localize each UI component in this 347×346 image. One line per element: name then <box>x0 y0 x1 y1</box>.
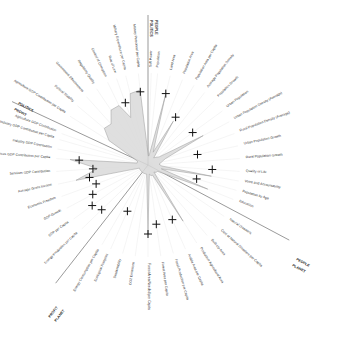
axis-label: Energy Consumption per Capita <box>72 248 100 292</box>
axis-spoke <box>148 165 207 235</box>
axis-spoke <box>102 165 148 245</box>
axis-label: Economic Freedom <box>27 196 56 210</box>
axis-label: Sustainability <box>113 258 122 279</box>
axis-label: Population Area <box>182 51 195 75</box>
axis-label: CO2 Emissions <box>128 261 135 285</box>
axis-label: GDP per Capita <box>48 220 70 237</box>
target-plus-icon <box>144 230 152 238</box>
target-plus-icon <box>193 175 201 183</box>
axis-label: Industry GDP Contribution <box>12 138 52 149</box>
target-plus-icon <box>123 207 131 215</box>
axis-label: Cost of Natural Disasters per Capita <box>220 228 263 267</box>
axis-label: Agriculture GDP Contribution per Capita <box>13 79 66 114</box>
axis-label: Rural Population Density (Average) <box>239 111 290 133</box>
axis-label: Rule of Law <box>107 55 117 74</box>
target-plus-icon <box>208 165 216 173</box>
axis-label: Voice and Accountability <box>244 179 281 189</box>
target-plus-icon <box>193 150 201 158</box>
axis-label: Population Growth <box>216 75 239 97</box>
section-label-politics-top: POLITICS <box>149 20 153 37</box>
axis-label: Forest Area per Capita <box>161 262 170 296</box>
axis-label: Rural Population Growth <box>246 153 283 160</box>
target-plus-icon <box>88 202 96 210</box>
axis-label: Population <box>155 51 161 67</box>
axis-label: Land Area <box>169 54 177 70</box>
axis-spoke <box>148 165 161 256</box>
target-plus-icon <box>92 180 100 188</box>
section-label-people-top: PEOPLE <box>154 20 158 35</box>
axis-label: Built-Up Area <box>210 238 226 256</box>
axis-label: Quality of Life <box>246 169 267 174</box>
axis-label: Soft Power <box>148 50 153 68</box>
axis-label: Control of Corruption <box>90 47 107 77</box>
axis-label: Regulatory Quality <box>77 59 96 85</box>
axis-label: Education <box>239 199 255 208</box>
axis-spoke <box>123 165 148 253</box>
target-plus-icon <box>162 90 170 98</box>
target-plus-icon <box>168 216 176 224</box>
axis-label: Services GDP Contribution per Capita <box>0 151 51 159</box>
axis-label: Fossil Production per Capita <box>174 258 190 300</box>
target-plus-icon <box>89 190 97 198</box>
axis-label: Political Stability <box>53 84 75 103</box>
target-plus-icon <box>121 99 129 107</box>
axis-label: Arable Area per Capita <box>187 253 205 286</box>
target-plus-icon <box>189 129 197 137</box>
section-divider <box>148 165 289 240</box>
target-plus-icon <box>172 113 180 121</box>
axis-spoke <box>111 165 148 249</box>
axis-label: GDP Growth <box>43 208 62 221</box>
axis-spoke <box>148 101 214 165</box>
axis-label: Services GDP Contribution <box>10 169 51 176</box>
axis-label: Natural Disasters <box>229 217 253 235</box>
axis-label: Military Personnel per Capita <box>132 24 141 68</box>
axis-label: Urban Population <box>226 90 250 109</box>
radar-chart: PopulationLand AreaPopulation AreaPopula… <box>0 0 347 346</box>
axis-label: Forest Area Needed per Capita <box>147 263 151 310</box>
axis-label: Industry GDP Contribution per Capita <box>0 120 55 139</box>
target-plus-icon <box>152 220 160 228</box>
axis-label: Urban Population Growth <box>243 134 281 146</box>
axis-label: Population by Age <box>242 189 269 200</box>
axis-label: Average Gross Income <box>18 182 53 193</box>
axis-spoke <box>148 165 173 253</box>
